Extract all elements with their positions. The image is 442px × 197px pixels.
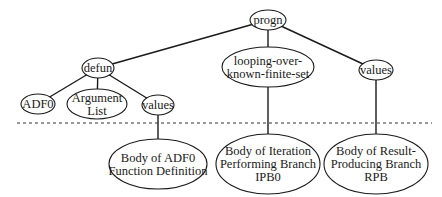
node-label: IPB0 [255,170,281,184]
node-label: List [87,104,107,118]
node-looping: looping-over-known-finite-set [222,47,314,87]
node-body-adf0: Body of ADF0Function Definition [109,139,209,189]
node-label: values [360,63,392,77]
program-tree-diagram: progndefunlooping-over-known-finite-setv… [0,0,442,197]
node-body-rpb: Body of Result-Producing BranchRPB [324,134,428,194]
node-label: ADF0 [22,97,53,111]
node-body-ipb0: Body of IterationPerforming BranchIPB0 [216,134,320,194]
node-progn: progn [250,10,286,30]
node-label: defun [84,61,113,75]
node-values-right: values [359,60,393,80]
node-label: Function Definition [109,164,209,178]
node-adf0: ADF0 [21,94,55,114]
node-label: looping-over- [234,54,302,68]
node-label: known-finite-set [227,67,310,81]
node-label: Body of Result- [336,144,416,158]
node-label: Performing Branch [220,157,317,171]
node-label: RPB [364,170,388,184]
node-argument-list: ArgumentList [67,89,127,119]
node-label: Body of ADF0 [121,151,195,165]
node-label: values [142,98,174,112]
tree-nodes: progndefunlooping-over-known-finite-setv… [21,10,428,194]
node-label: Argument [72,91,123,105]
node-label: progn [253,13,283,27]
node-defun: defun [82,58,114,78]
node-label: Producing Branch [331,157,422,171]
node-label: Body of Iteration [225,144,312,158]
node-values-left: values [142,95,174,115]
